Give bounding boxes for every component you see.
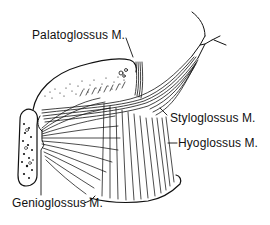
- styloglossus-label: Styloglossus M.: [170, 112, 256, 124]
- palatoglossus-leader: [126, 38, 133, 57]
- hyoid-bone: [90, 175, 181, 202]
- genioglossus-label: Genioglossus M.: [12, 197, 103, 209]
- styloid-process: [192, 12, 226, 58]
- genioglossus-leader: [41, 130, 44, 195]
- mandible: [18, 109, 37, 186]
- palatoglossus-muscle: [135, 62, 143, 98]
- tongue-muscles-diagram: Palatoglossus M. Styloglossus M. Hyoglos…: [0, 0, 270, 225]
- hyoglossus-muscle: [102, 104, 174, 200]
- palatoglossus-label: Palatoglossus M.: [32, 29, 125, 41]
- hyoglossus-label: Hyoglossus M.: [178, 137, 258, 149]
